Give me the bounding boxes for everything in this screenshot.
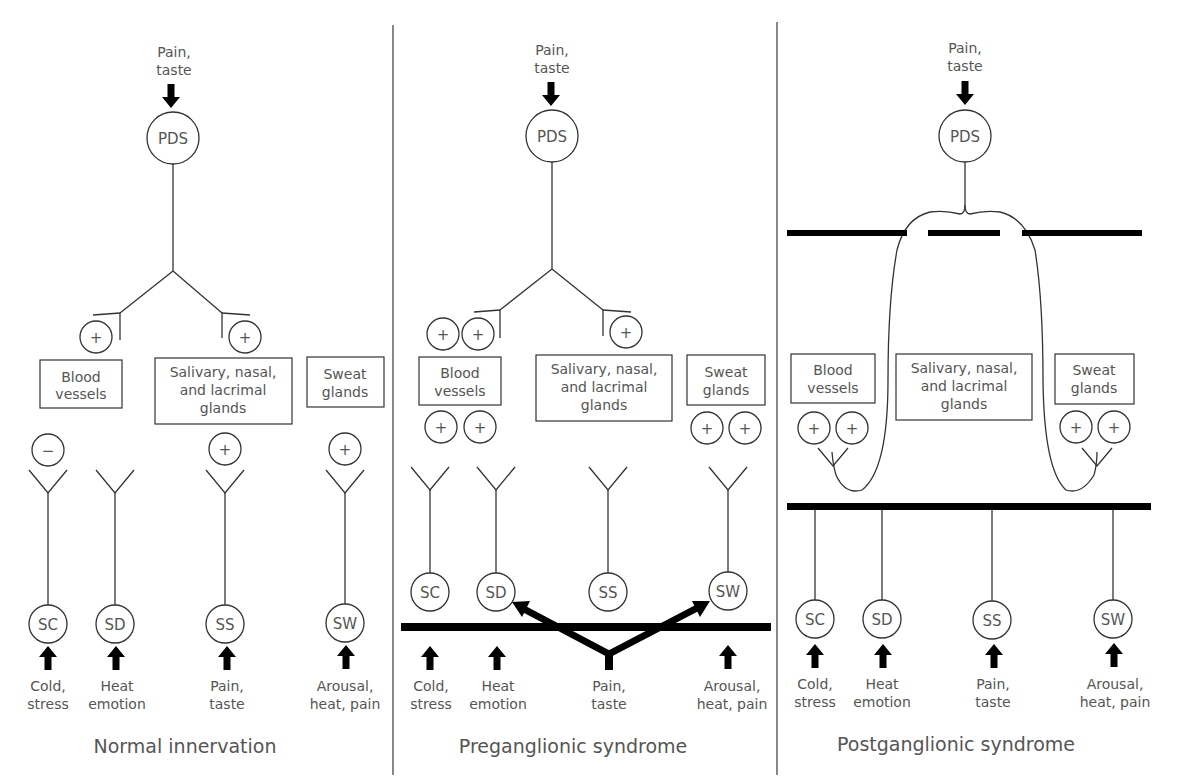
- up-arrow-icon: [1105, 643, 1123, 667]
- svg-text:SW: SW: [1101, 611, 1126, 629]
- up-arrow-icon: [488, 646, 506, 670]
- svg-text:Cold,: Cold,: [30, 678, 66, 694]
- svg-text:Salivary, nasal,: Salivary, nasal,: [551, 361, 658, 377]
- svg-text:−: −: [42, 442, 55, 460]
- svg-text:vessels: vessels: [55, 386, 106, 402]
- svg-text:Arousal,: Arousal,: [704, 678, 761, 694]
- innervation-diagram: Pain, taste PDS + + Blood vessels Saliva…: [0, 0, 1179, 784]
- down-arrow-icon: [542, 82, 560, 106]
- svg-text:Sweat: Sweat: [1072, 362, 1116, 378]
- svg-text:glands: glands: [941, 396, 987, 412]
- svg-text:Salivary, nasal,: Salivary, nasal,: [170, 364, 277, 380]
- up-arrow-icon: [107, 646, 125, 670]
- svg-text:+: +: [739, 420, 752, 438]
- up-arrow-icon: [421, 646, 439, 670]
- svg-text:Heat: Heat: [481, 678, 515, 694]
- svg-text:heat, pain: heat, pain: [697, 696, 768, 712]
- pds-label: PDS: [158, 130, 188, 148]
- svg-text:taste: taste: [947, 58, 982, 74]
- panel-title: Postganglionic syndrome: [837, 733, 1075, 755]
- up-arrow-icon: [719, 645, 737, 669]
- svg-text:+: +: [808, 420, 821, 438]
- svg-text:SD: SD: [104, 616, 125, 634]
- svg-text:+: +: [435, 419, 448, 437]
- svg-text:heat, pain: heat, pain: [310, 696, 381, 712]
- svg-text:SW: SW: [716, 583, 741, 601]
- svg-text:Cold,: Cold,: [413, 678, 449, 694]
- svg-text:SD: SD: [485, 584, 506, 602]
- lesion-bar-segment: [1022, 230, 1142, 236]
- svg-text:Blood: Blood: [813, 362, 853, 378]
- svg-text:+: +: [90, 329, 103, 347]
- svg-text:Heat: Heat: [865, 676, 899, 692]
- svg-text:emotion: emotion: [853, 694, 911, 710]
- svg-text:+: +: [1070, 419, 1083, 437]
- svg-text:Pain,: Pain,: [948, 40, 982, 56]
- svg-text:Pain,: Pain,: [592, 678, 626, 694]
- svg-text:taste: taste: [534, 60, 569, 76]
- svg-text:SS: SS: [598, 584, 617, 602]
- svg-text:Salivary, nasal,: Salivary, nasal,: [911, 360, 1018, 376]
- svg-text:SS: SS: [215, 616, 234, 634]
- svg-text:SS: SS: [982, 612, 1001, 630]
- lesion-bar-segment: [928, 230, 1000, 236]
- up-arrow-icon: [874, 644, 892, 668]
- svg-text:+: +: [846, 420, 859, 438]
- lesion-bar: [787, 503, 1151, 510]
- up-arrow-icon: [337, 645, 355, 669]
- svg-text:vessels: vessels: [807, 380, 858, 396]
- svg-text:taste: taste: [209, 696, 244, 712]
- svg-text:glands: glands: [1071, 380, 1117, 396]
- lesion-bar: [401, 623, 771, 631]
- svg-text:+: +: [339, 441, 352, 459]
- svg-text:SD: SD: [871, 611, 892, 629]
- svg-text:PDS: PDS: [537, 128, 567, 146]
- down-arrow-icon: [162, 84, 180, 108]
- svg-text:emotion: emotion: [469, 696, 527, 712]
- svg-text:glands: glands: [581, 397, 627, 413]
- svg-text:Arousal,: Arousal,: [317, 678, 374, 694]
- svg-text:heat, pain: heat, pain: [1080, 694, 1151, 710]
- up-arrow-icon: [218, 646, 236, 670]
- svg-text:stress: stress: [410, 696, 451, 712]
- svg-text:vessels: vessels: [434, 383, 485, 399]
- svg-text:SC: SC: [38, 616, 58, 634]
- panel-postganglionic-syndrome: Pain, taste PDS Blood vessels Salivary, …: [787, 40, 1151, 755]
- panel-preganglionic-syndrome: Pain, taste PDS + + + Blood vessels Sali…: [401, 42, 771, 757]
- svg-text:+: +: [239, 329, 252, 347]
- svg-text:glands: glands: [322, 384, 368, 400]
- svg-text:Blood: Blood: [61, 369, 101, 385]
- svg-text:taste: taste: [975, 694, 1010, 710]
- panel-normal-innervation: Pain, taste PDS + + Blood vessels Saliva…: [27, 44, 384, 757]
- panel-title: Preganglionic syndrome: [459, 735, 687, 757]
- svg-text:+: +: [219, 441, 232, 459]
- svg-text:glands: glands: [200, 400, 246, 416]
- svg-text:Blood: Blood: [440, 365, 480, 381]
- svg-text:Pain,: Pain,: [210, 678, 244, 694]
- svg-text:+: +: [474, 419, 487, 437]
- top-stimulus-line2: taste: [156, 62, 191, 78]
- svg-text:emotion: emotion: [88, 696, 146, 712]
- svg-text:and lacrimal: and lacrimal: [180, 382, 267, 398]
- svg-text:Heat: Heat: [100, 678, 134, 694]
- svg-text:Pain,: Pain,: [535, 42, 569, 58]
- svg-text:Sweat: Sweat: [704, 364, 748, 380]
- up-arrow-stem: [605, 652, 613, 670]
- up-arrow-icon: [39, 646, 57, 670]
- svg-text:+: +: [472, 326, 485, 344]
- svg-text:SC: SC: [420, 584, 440, 602]
- up-arrow-icon: [985, 644, 1003, 668]
- svg-text:stress: stress: [27, 696, 68, 712]
- svg-text:glands: glands: [703, 382, 749, 398]
- svg-text:PDS: PDS: [950, 128, 980, 146]
- panel-title: Normal innervation: [94, 735, 277, 757]
- up-arrow-icon: [806, 644, 824, 668]
- svg-text:stress: stress: [794, 694, 835, 710]
- svg-text:taste: taste: [591, 696, 626, 712]
- svg-text:SW: SW: [333, 615, 358, 633]
- lesion-bar-segment: [787, 230, 907, 236]
- svg-text:Sweat: Sweat: [323, 366, 367, 382]
- svg-text:and lacrimal: and lacrimal: [561, 379, 648, 395]
- svg-text:+: +: [1108, 419, 1121, 437]
- svg-text:Cold,: Cold,: [797, 676, 833, 692]
